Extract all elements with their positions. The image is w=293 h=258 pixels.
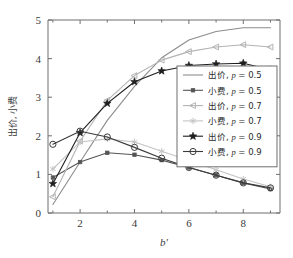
marker-square [51, 176, 54, 179]
figure-container: 2468012345b'出价, 小费出价, p = 0.5小费, p = 0.5… [0, 0, 293, 258]
y-tick-label: 2 [36, 130, 42, 142]
marker-square [191, 89, 194, 92]
y-tick-label: 5 [36, 14, 42, 26]
legend-label: 小费, p = 0.5 [208, 86, 262, 96]
legend: 出价, p = 0.5小费, p = 0.5出价, p = 0.7小费, p =… [177, 66, 277, 167]
legend-label: 出价, p = 0.9 [208, 132, 262, 142]
marker-star [239, 59, 247, 66]
legend-label: 出价, p = 0.5 [208, 70, 262, 80]
legend-label: 出价, p = 0.7 [208, 101, 262, 111]
y-tick-label: 4 [36, 53, 42, 65]
legend-label: 小费, p = 0.9 [208, 147, 262, 157]
x-tick-label: 8 [241, 217, 247, 229]
marker-square [133, 153, 136, 156]
x-tick-label: 6 [186, 217, 192, 229]
y-tick-label: 0 [36, 207, 42, 219]
x-tick-label: 4 [132, 217, 138, 229]
x-axis-title: b' [160, 236, 169, 248]
marker-asterisk [159, 148, 165, 154]
y-axis-title: 出价, 小费 [7, 96, 18, 138]
marker-star [49, 180, 57, 187]
legend-label: 小费, p = 0.7 [208, 116, 262, 126]
y-tick-label: 1 [36, 168, 42, 180]
marker-star [158, 67, 166, 74]
marker-square [78, 160, 81, 163]
y-tick-label: 3 [36, 91, 42, 103]
marker-square [106, 151, 109, 154]
x-tick-label: 2 [77, 217, 83, 229]
chart-canvas: 2468012345b'出价, 小费出价, p = 0.5小费, p = 0.5… [0, 0, 293, 258]
